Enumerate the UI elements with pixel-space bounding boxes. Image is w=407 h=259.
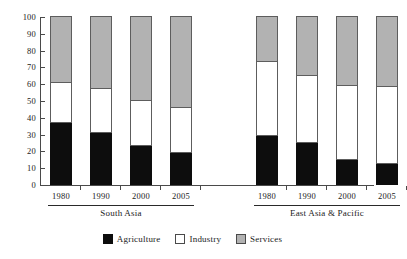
x-axis-line xyxy=(40,185,374,186)
legend-item-agriculture: Agriculture xyxy=(103,234,161,244)
y-axis-tick xyxy=(41,185,45,186)
bar-segment-services xyxy=(376,16,398,87)
y-axis-tick-label: 60 xyxy=(6,80,36,89)
legend-swatch-services xyxy=(236,234,246,244)
x-axis-tick-label: 2000 xyxy=(121,192,161,201)
legend-swatch-agriculture xyxy=(103,234,113,244)
bar-segment-industry xyxy=(256,61,278,136)
bar-stack xyxy=(256,17,278,185)
group-label: East Asia & Pacific xyxy=(254,208,400,219)
bar-segment-services xyxy=(90,16,112,89)
y-axis-tick-label: 30 xyxy=(6,131,36,140)
bar-segment-services xyxy=(130,16,152,101)
x-axis-tick-label: 1990 xyxy=(287,192,327,201)
bar-stack xyxy=(50,17,72,185)
bar-stack xyxy=(130,17,152,185)
x-axis-tick-label: 1980 xyxy=(41,192,81,201)
x-axis-tick-label: 1990 xyxy=(81,192,121,201)
bar-segment-agriculture xyxy=(296,142,318,185)
x-axis-tick xyxy=(200,186,201,190)
bar-segment-services xyxy=(50,16,72,83)
bar-segment-agriculture xyxy=(130,145,152,185)
chart-legend: AgricultureIndustryServices xyxy=(0,234,385,244)
legend-item-services: Services xyxy=(236,234,282,244)
y-axis-tick-label: 90 xyxy=(6,30,36,39)
bar-segment-industry xyxy=(50,82,72,123)
x-axis-tick xyxy=(326,186,327,190)
x-axis-tick-label: 2005 xyxy=(161,192,201,201)
y-axis-tick-label: 0 xyxy=(6,181,36,190)
x-axis-tick-label: 2005 xyxy=(367,192,407,201)
group-label: South Asia xyxy=(48,208,194,219)
x-axis-tick-label: 1980 xyxy=(247,192,287,201)
bar-stack xyxy=(376,17,398,185)
bar-segment-agriculture xyxy=(90,132,112,185)
x-axis-tick xyxy=(160,186,161,190)
bar-segment-industry xyxy=(90,88,112,133)
bar-segment-services xyxy=(170,16,192,108)
bar-stack xyxy=(90,17,112,185)
y-axis-tick-label: 80 xyxy=(6,47,36,56)
bar-stack xyxy=(170,17,192,185)
plot-area xyxy=(40,17,374,185)
y-axis-tick-label: 10 xyxy=(6,164,36,173)
bar-segment-industry xyxy=(336,85,358,160)
x-axis-tick xyxy=(80,186,81,190)
bar-segment-industry xyxy=(376,86,398,164)
y-axis-tick-label: 100 xyxy=(6,13,36,22)
group-rule xyxy=(48,205,194,206)
x-axis-tick xyxy=(120,186,121,190)
bar-segment-agriculture xyxy=(336,159,358,185)
legend-label: Industry xyxy=(189,234,221,244)
bar-segment-services xyxy=(256,16,278,62)
y-axis-tick-label: 40 xyxy=(6,114,36,123)
bar-segment-agriculture xyxy=(256,135,278,185)
bar-stack xyxy=(336,17,358,185)
y-axis-tick-label: 70 xyxy=(6,63,36,72)
y-axis-tick-label: 50 xyxy=(6,97,36,106)
legend-swatch-industry xyxy=(175,234,185,244)
bar-segment-industry xyxy=(130,100,152,146)
legend-label: Agriculture xyxy=(117,234,161,244)
y-axis-tick-label: 20 xyxy=(6,147,36,156)
x-axis-tick-label: 2000 xyxy=(327,192,367,201)
bar-segment-agriculture xyxy=(170,152,192,185)
bar-stack xyxy=(296,17,318,185)
legend-label: Services xyxy=(250,234,282,244)
group-rule xyxy=(254,205,400,206)
bar-segment-agriculture xyxy=(50,122,72,185)
legend-item-industry: Industry xyxy=(175,234,221,244)
bar-segment-services xyxy=(296,16,318,76)
bar-segment-industry xyxy=(296,75,318,143)
bar-segment-services xyxy=(336,16,358,86)
x-axis-tick xyxy=(286,186,287,190)
bar-segment-industry xyxy=(170,107,192,153)
x-axis-tick xyxy=(366,186,367,190)
bar-segment-agriculture xyxy=(376,163,398,185)
